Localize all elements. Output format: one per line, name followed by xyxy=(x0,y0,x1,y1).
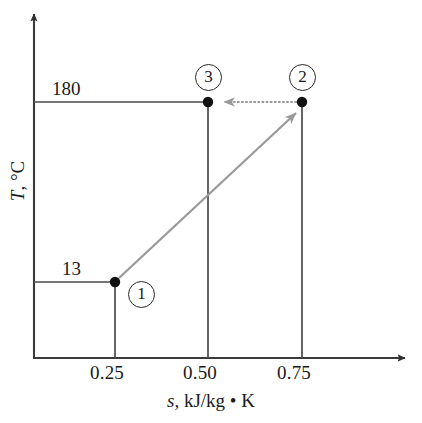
y-axis-title: T, °C xyxy=(7,151,29,211)
x-tick-label-075: 0.75 xyxy=(277,363,311,382)
y-axis-symbol: T xyxy=(7,191,28,202)
x-axis-title: s, kJ/kg • K xyxy=(0,390,422,412)
y-axis-units: , °C xyxy=(7,161,28,191)
y-tick-label-13: 13 xyxy=(62,259,81,278)
state-point-2[interactable] xyxy=(297,97,307,107)
x-tick-label-050: 0.50 xyxy=(183,363,217,382)
state-3-badge[interactable]: 3 xyxy=(195,64,222,91)
x-tick-label-025: 0.25 xyxy=(90,363,124,382)
state-point-3[interactable] xyxy=(203,97,213,107)
ts-diagram-figure: 180 13 0.25 0.50 0.75 T, °C s, kJ/kg • K… xyxy=(0,0,422,423)
x-axis-units: , kJ/kg • K xyxy=(174,390,255,411)
state-2-badge[interactable]: 2 xyxy=(289,64,316,91)
state-point-1[interactable] xyxy=(110,277,120,287)
y-tick-label-180: 180 xyxy=(52,79,81,98)
state-1-badge[interactable]: 1 xyxy=(128,281,155,308)
